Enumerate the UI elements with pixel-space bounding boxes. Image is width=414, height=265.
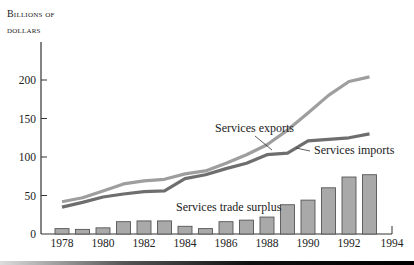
annotation-services-imports: Services imports xyxy=(314,143,395,157)
surplus-bar xyxy=(240,220,254,234)
y-axis-label: Billions of dollars xyxy=(7,6,55,38)
surplus-bar xyxy=(55,229,69,234)
x-tick-label: 1990 xyxy=(297,237,320,249)
y-tick-label: 0 xyxy=(30,228,36,240)
surplus-bar xyxy=(199,229,213,234)
y-axis-label-line-2: dollars xyxy=(7,22,55,38)
y-tick-label: 200 xyxy=(19,74,37,86)
surplus-bar xyxy=(137,221,151,234)
bottom-rule xyxy=(0,261,414,265)
surplus-bar xyxy=(219,222,233,234)
annotation-leader xyxy=(296,148,310,151)
surplus-bar xyxy=(281,205,295,234)
y-axis-label-line-1: Billions of xyxy=(7,6,55,22)
chart: Billions of dollars 05010015020019781980… xyxy=(0,0,414,265)
surplus-bar xyxy=(260,217,274,234)
surplus-bar xyxy=(96,228,110,234)
x-tick-label: 1992 xyxy=(338,237,361,249)
x-tick-label: 1984 xyxy=(174,237,197,249)
surplus-bar xyxy=(322,188,336,234)
surplus-bar xyxy=(178,226,192,234)
surplus-bar xyxy=(363,175,377,234)
x-tick-label: 1980 xyxy=(92,237,115,249)
x-tick-label: 1986 xyxy=(215,237,238,249)
surplus-bar xyxy=(301,200,315,234)
annotation-services-trade-surplus: Services trade surplus xyxy=(176,200,282,214)
y-tick-label: 100 xyxy=(19,151,37,163)
y-tick-label: 50 xyxy=(25,190,37,202)
annotation-services-exports: Services exports xyxy=(215,121,294,135)
surplus-bar xyxy=(158,221,172,234)
surplus-bar xyxy=(342,177,356,234)
x-tick-label: 1988 xyxy=(256,237,279,249)
y-tick-label: 150 xyxy=(19,113,37,125)
surplus-bar xyxy=(76,229,90,234)
x-tick-label: 1982 xyxy=(133,237,156,249)
surplus-bar xyxy=(117,222,131,234)
x-tick-label: 1994 xyxy=(381,237,404,249)
x-tick-label: 1978 xyxy=(51,237,74,249)
plot-area: 0501001502001978198019821984198619881990… xyxy=(0,0,414,265)
